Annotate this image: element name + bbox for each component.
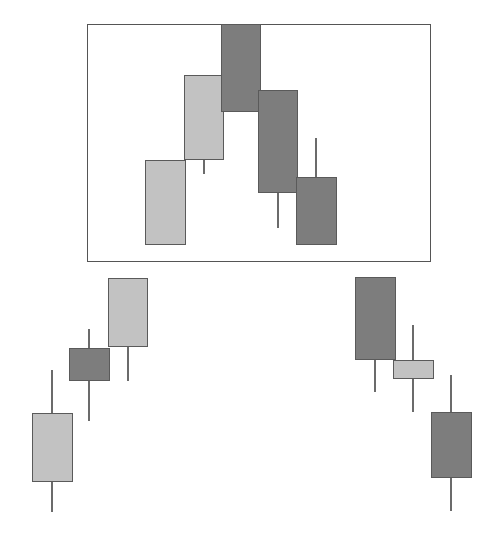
candlestick-body-6: [32, 413, 73, 482]
candlestick-body-2: [184, 75, 224, 160]
candlestick-body-11: [431, 412, 472, 478]
candlestick-body-3: [221, 24, 261, 112]
candlestick-body-4: [258, 90, 298, 193]
candlestick-body-1: [145, 160, 186, 245]
candlestick-body-7: [69, 348, 110, 381]
candlestick-body-8: [108, 278, 148, 347]
candlestick-body-10: [393, 360, 434, 379]
candlestick-body-9: [355, 277, 396, 360]
candlestick-diagram: [0, 0, 504, 538]
candlestick-body-5: [296, 177, 337, 245]
